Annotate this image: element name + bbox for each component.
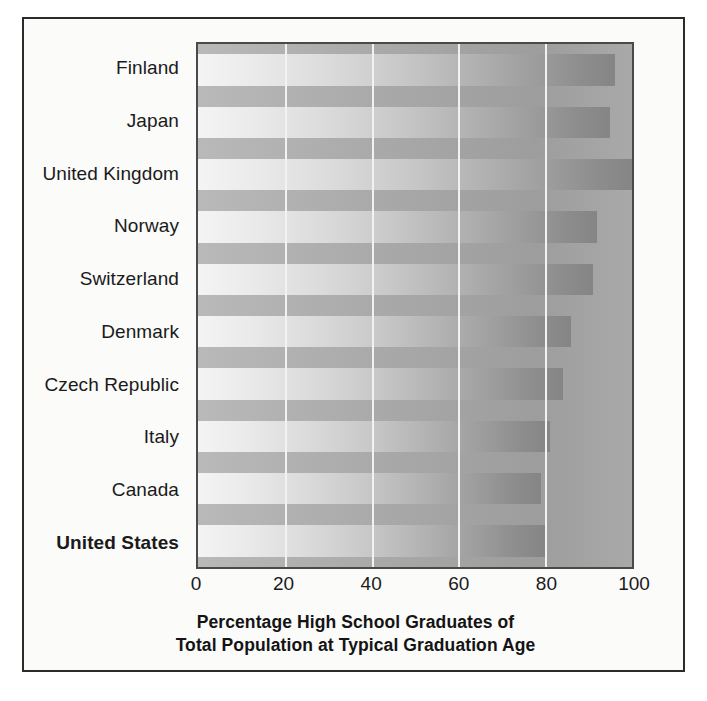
x-axis-tick: 60 [448,573,469,595]
y-axis-label: Switzerland [24,253,188,306]
gridline [458,44,460,567]
x-axis-title-line-1: Percentage High School Graduates of [24,611,687,634]
bar-row [198,462,632,514]
bar [198,316,571,347]
bar-row [198,201,632,253]
bar-series [198,44,632,567]
bar-row [198,305,632,357]
bar-row [198,44,632,96]
x-axis-tick: 20 [273,573,294,595]
gridline [372,44,374,567]
x-axis-title-line-2: Total Population at Typical Graduation A… [24,634,687,657]
bar-chart: FinlandJapanUnited KingdomNorwaySwitzerl… [24,19,683,670]
figure-frame: FinlandJapanUnited KingdomNorwaySwitzerl… [22,17,685,672]
y-axis-label: Italy [24,411,188,464]
bar [198,159,632,190]
y-axis-label: Denmark [24,306,188,359]
x-axis-tick: 40 [361,573,382,595]
x-axis-tick: 0 [191,573,202,595]
y-axis-label: United States [24,516,188,569]
bar-row [198,96,632,148]
x-axis-tick: 100 [618,573,650,595]
bar [198,473,541,504]
bar [198,211,597,242]
y-axis-label: Canada [24,464,188,517]
bar-row [198,253,632,305]
x-axis-tick: 80 [536,573,557,595]
y-axis-label: United Kingdom [24,147,188,200]
plot-area [196,42,634,569]
x-axis-title: Percentage High School Graduates of Tota… [24,611,687,657]
bar-row [198,410,632,462]
gridline [285,44,287,567]
bar [198,264,593,295]
y-axis-category-labels: FinlandJapanUnited KingdomNorwaySwitzerl… [24,42,188,569]
bar [198,107,610,138]
y-axis-label: Finland [24,42,188,95]
bar [198,54,615,85]
gridline [545,44,547,567]
y-axis-label: Norway [24,200,188,253]
y-axis-label: Czech Republic [24,358,188,411]
bar-row [198,358,632,410]
x-axis-tick-labels: 020406080100 [196,573,634,603]
bar-row [198,149,632,201]
bar [198,421,550,452]
bar-row [198,515,632,567]
y-axis-label: Japan [24,95,188,148]
bar [198,368,563,399]
